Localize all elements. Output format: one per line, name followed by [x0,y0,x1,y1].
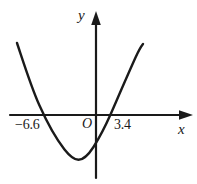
x-axis-arrow-icon [179,110,193,120]
parabola-curve [17,43,143,160]
origin-label: O [82,117,92,131]
x-tick-label-right: 3.4 [114,118,131,132]
y-axis-label: y [78,8,85,23]
parabola-graph: y x O −6.6 3.4 [0,0,197,184]
x-axis-label: x [178,122,185,137]
y-axis-arrow-icon [91,11,101,25]
x-tick-label-left: −6.6 [15,118,40,132]
graph-canvas [0,0,197,184]
